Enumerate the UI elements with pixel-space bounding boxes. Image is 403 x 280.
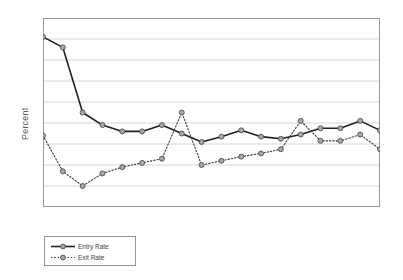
series-line-entry-rate <box>43 37 380 142</box>
data-point <box>120 129 125 134</box>
data-point <box>199 139 204 144</box>
plot-area: 0123456789 1990199520002005 <box>43 18 380 207</box>
legend-item-entry-rate[interactable]: Entry Rate <box>50 241 130 252</box>
data-point <box>239 128 244 133</box>
data-point <box>80 110 85 115</box>
data-point <box>358 132 363 137</box>
series-line-exit-rate <box>43 113 380 187</box>
data-point <box>100 123 105 128</box>
data-point <box>298 118 303 123</box>
data-point <box>60 169 65 174</box>
data-point <box>278 147 283 152</box>
data-point <box>100 171 105 176</box>
data-point <box>43 133 46 138</box>
data-point <box>179 131 184 136</box>
data-point <box>120 165 125 170</box>
legend-key-entry-rate <box>50 241 76 252</box>
chart-legend: Entry Rate Exit Rate <box>44 236 136 266</box>
data-point <box>159 156 164 161</box>
chart-container: Percent 0123456789 1990199520002005 Entr… <box>0 0 403 280</box>
data-point <box>338 126 343 131</box>
data-point <box>159 123 164 128</box>
data-point <box>60 45 65 50</box>
data-point <box>179 110 184 115</box>
data-point <box>378 147 381 152</box>
data-point <box>278 136 283 141</box>
legend-key-exit-rate <box>50 252 76 263</box>
data-point <box>219 134 224 139</box>
data-point <box>140 129 145 134</box>
data-point <box>358 118 363 123</box>
data-point <box>378 128 381 133</box>
legend-label-exit-rate: Exit Rate <box>78 252 104 263</box>
data-point <box>80 184 85 189</box>
data-point <box>338 138 343 143</box>
y-axis-title: Percent <box>20 108 30 140</box>
data-point <box>43 34 46 39</box>
legend-label-entry-rate: Entry Rate <box>78 241 109 252</box>
gridlines <box>43 18 380 186</box>
data-point <box>140 160 145 165</box>
data-point <box>259 134 264 139</box>
line-chart-svg: 0123456789 1990199520002005 <box>43 18 380 207</box>
data-point <box>219 158 224 163</box>
data-point <box>318 126 323 131</box>
data-point <box>199 163 204 168</box>
data-point <box>259 151 264 156</box>
data-point <box>318 138 323 143</box>
data-point <box>239 154 244 159</box>
legend-item-exit-rate[interactable]: Exit Rate <box>50 252 130 263</box>
data-point <box>298 132 303 137</box>
